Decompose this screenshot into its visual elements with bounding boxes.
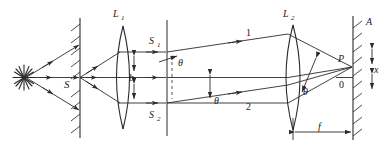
slit-screen-s (71, 18, 80, 138)
diffracted-ray-arrows (228, 41, 242, 94)
theta-focus-label: θ (303, 86, 308, 97)
diffracted-rays (167, 34, 288, 103)
screen-hatching (71, 24, 80, 133)
slit-s2-label: S (149, 109, 154, 120)
focal-length-label: f (318, 121, 322, 132)
slit-s-label: S (64, 78, 70, 90)
theta-slit-label: θ (178, 57, 183, 68)
slit-separation-label: b (129, 72, 134, 83)
ray-diagram-canvas: S L 1 (0, 0, 387, 156)
focal-length-dimension (293, 118, 351, 140)
slit-to-lens1-midarrows (86, 66, 98, 89)
theta-ray2-label: θ (214, 95, 219, 106)
observation-screen-a (353, 16, 362, 140)
lens-l1-sublabel: 1 (121, 14, 125, 22)
collimated-beam-rays (118, 52, 166, 103)
point-p-label: P (337, 53, 344, 64)
theta-slit-marker (159, 56, 177, 62)
lens-l1-label: L (112, 8, 119, 19)
ray-2-label: 2 (246, 101, 251, 112)
collimated-beam-arrows (146, 52, 158, 103)
lens-l2-label: L (282, 8, 289, 19)
screen-a-label: A (365, 16, 373, 27)
slit-s1-sublabel: 1 (157, 41, 161, 49)
origin-label: 0 (339, 79, 344, 90)
screen-a-hatching (353, 21, 362, 136)
lens-l2-sublabel: 2 (291, 14, 295, 22)
ray-1-label: 1 (246, 27, 251, 38)
source-to-slit-ray-midarrows (42, 61, 53, 94)
slit-s1-label: S (149, 35, 154, 46)
displacement-label: x (373, 64, 379, 75)
slit-s2-sublabel: 2 (157, 115, 161, 123)
optics-diagram-figure: S L 1 (0, 0, 387, 156)
